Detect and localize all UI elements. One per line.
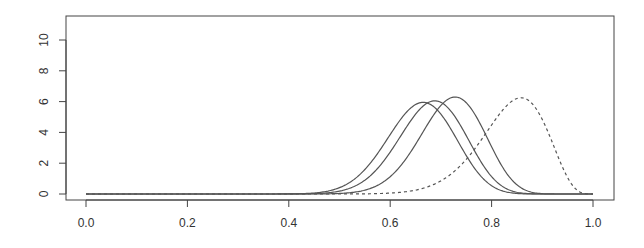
- y-tick-label: 0: [37, 190, 51, 197]
- y-tick-label: 2: [37, 160, 51, 167]
- x-axis: 0.00.20.40.60.81.0: [78, 200, 602, 230]
- y-tick-label: 10: [37, 33, 51, 47]
- series-group: [86, 97, 593, 194]
- x-tick-label: 1.0: [585, 216, 602, 230]
- x-tick-label: 0.0: [78, 216, 95, 230]
- density-curve-3: [86, 97, 593, 194]
- plot-frame: [66, 16, 614, 200]
- density-curve-2: [86, 101, 593, 194]
- x-tick-label: 0.2: [179, 216, 196, 230]
- y-axis: 0246810: [37, 33, 66, 197]
- density-curve-1: [86, 102, 593, 194]
- density-curve-4: [86, 98, 593, 194]
- x-tick-label: 0.8: [483, 216, 500, 230]
- y-tick-label: 4: [37, 129, 51, 136]
- density-chart: 0.00.20.40.60.81.0 0246810: [0, 0, 644, 248]
- x-tick-label: 0.4: [280, 216, 297, 230]
- x-tick-label: 0.6: [382, 216, 399, 230]
- y-tick-label: 8: [37, 67, 51, 74]
- y-tick-label: 6: [37, 98, 51, 105]
